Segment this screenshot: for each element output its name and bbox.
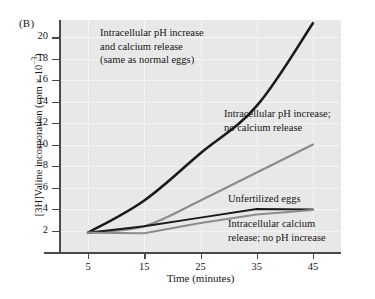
annotation-ph-and-calcium: Intracellular pH increase and calcium re… xyxy=(100,26,204,67)
y-axis-tick-label: 16 xyxy=(24,73,48,84)
y-axis-tick-label: 14 xyxy=(24,95,48,106)
y-axis-tick xyxy=(52,231,60,232)
annotation-unfertilized-eggs: Unfertilized eggs xyxy=(228,192,301,206)
x-axis-tick xyxy=(201,252,202,259)
x-axis-tick xyxy=(144,252,145,259)
x-axis-tick xyxy=(88,252,89,259)
y-axis-tick-label: 10 xyxy=(24,138,48,149)
y-axis-tick-label: 6 xyxy=(24,181,48,192)
x-axis-tick-label: 15 xyxy=(129,261,159,272)
y-axis-tick xyxy=(52,209,60,210)
y-axis-tick-label: 2 xyxy=(24,224,48,235)
y-axis-tick xyxy=(52,80,60,81)
annotation-ph-only: Intracellular pH increase; no calcium re… xyxy=(224,107,331,134)
x-axis-tick-label: 25 xyxy=(186,261,216,272)
y-axis-tick xyxy=(52,123,60,124)
y-axis-tick xyxy=(52,188,60,189)
x-axis-tick-label: 5 xyxy=(73,261,103,272)
figure-panel-b: (B) [3H]Valine incorporation (cpm × 10−3… xyxy=(0,0,375,299)
y-axis-tick-label: 12 xyxy=(24,116,48,127)
y-axis-tick xyxy=(52,37,60,38)
y-axis-tick-label: 4 xyxy=(24,202,48,213)
y-axis-tick-label: 8 xyxy=(24,159,48,170)
y-axis-tick xyxy=(52,102,60,103)
y-axis-tick-label: 20 xyxy=(24,30,48,41)
x-axis-tick xyxy=(313,252,314,259)
y-axis-tick xyxy=(52,145,60,146)
y-axis-tick-label: 18 xyxy=(24,52,48,63)
x-axis-tick-label: 45 xyxy=(298,261,328,272)
x-axis-tick xyxy=(257,252,258,259)
x-axis-tick-label: 35 xyxy=(242,261,272,272)
y-axis-tick xyxy=(52,59,60,60)
x-axis-title: Time (minutes) xyxy=(60,272,341,284)
y-axis-tick xyxy=(52,166,60,167)
annotation-calcium-only: Intracellular calcium release; no pH inc… xyxy=(228,217,326,244)
